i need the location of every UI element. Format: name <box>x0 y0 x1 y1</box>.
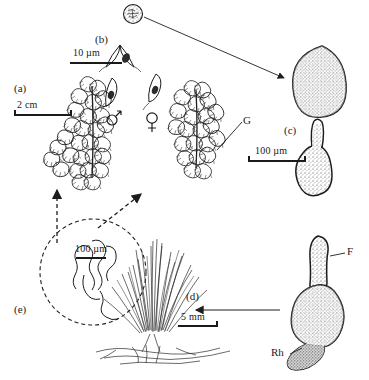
panel-label-a: (a) <box>14 82 26 94</box>
scale-bar-c <box>248 160 306 162</box>
leader-spore-enlargement <box>144 17 284 78</box>
panel-label-b: (b) <box>95 33 108 45</box>
germinating-spore <box>296 119 332 195</box>
scale-label-c: 100 µm <box>255 145 287 156</box>
annotation-filament: F <box>347 245 353 257</box>
scale-tick-c-left <box>248 156 250 161</box>
scale-bar-d <box>178 325 218 327</box>
illustration-layer <box>0 0 369 380</box>
leader-gemma <box>217 122 242 150</box>
sporeling-with-rhizoid <box>287 236 345 370</box>
scale-tick-d-right <box>216 321 218 326</box>
scale-bar-b <box>70 62 122 64</box>
spore-enlarged <box>293 46 346 117</box>
scale-tick-a-left <box>14 110 16 115</box>
scale-label-e: 100 µm <box>75 243 107 254</box>
arrow-protonema-to-shoot-right <box>98 194 141 228</box>
spore-small-top <box>124 5 143 24</box>
panel-label-d: (d) <box>186 290 199 302</box>
figure-canvas: (a) 2 cm (b) 10 µm (c) 100 µm (d) 5 mm (… <box>0 0 369 380</box>
scale-label-b: 10 µm <box>73 47 100 58</box>
gametophyte-shoot-right <box>165 80 228 179</box>
female-symbol <box>147 113 157 132</box>
scale-tick-c-right <box>304 156 306 161</box>
panel-label-e: (e) <box>14 303 26 315</box>
leader-filament <box>330 253 345 256</box>
scale-tick-a-right <box>70 110 72 115</box>
scale-label-a: 2 cm <box>17 99 38 110</box>
gametophyte-shoot-a <box>40 77 116 190</box>
annotation-rhizoid: Rh <box>271 346 284 358</box>
annotation-gemma: G <box>243 114 251 126</box>
scale-bar-e <box>76 257 106 259</box>
scale-label-d: 5 mm <box>181 311 205 322</box>
panel-label-c: (c) <box>284 124 296 136</box>
scale-bar-a <box>14 114 72 116</box>
